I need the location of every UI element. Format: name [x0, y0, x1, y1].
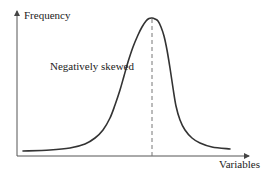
- y-axis-label: Frequency: [24, 10, 70, 21]
- chart-canvas: [0, 0, 272, 179]
- distribution-curve: [23, 18, 230, 151]
- skew-annotation: Negatively skewed: [50, 61, 134, 72]
- x-axis-label: Variables: [219, 159, 260, 170]
- skewed-distribution-figure: Frequency Negatively skewed Variables: [0, 0, 272, 179]
